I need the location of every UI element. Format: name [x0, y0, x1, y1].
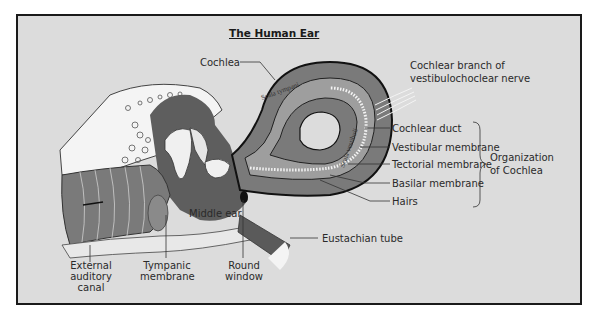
- round-window-shape: [240, 191, 248, 203]
- label-vestibular-membrane: Vestibular membrane: [392, 142, 500, 153]
- label-middle-ear: Middle ear: [189, 208, 242, 219]
- tympanic-membrane-shape: [148, 195, 168, 231]
- label-tympanic-membrane: Tympanic membrane: [140, 260, 194, 282]
- label-external-auditory-canal: External auditory canal: [68, 260, 114, 293]
- label-round-window: Round window: [222, 260, 266, 282]
- label-cochlear-branch-2: vestibulochoclear nerve: [410, 73, 530, 84]
- label-organization-2: of Cochlea: [490, 165, 543, 176]
- label-tectorial-membrane: Tectorial membrane: [392, 159, 492, 170]
- label-hairs: Hairs: [392, 196, 418, 207]
- label-basilar-membrane: Basilar membrane: [392, 178, 484, 189]
- label-cochlear-branch-1: Cochlear branch of: [410, 60, 505, 71]
- label-organization-1: Organization: [490, 152, 554, 163]
- label-cochlea: Cochlea: [200, 57, 240, 68]
- diagram-title: The Human Ear: [229, 27, 319, 39]
- label-cochlear-duct: Cochlear duct: [392, 123, 461, 134]
- label-eustachian-tube: Eustachian tube: [322, 233, 403, 244]
